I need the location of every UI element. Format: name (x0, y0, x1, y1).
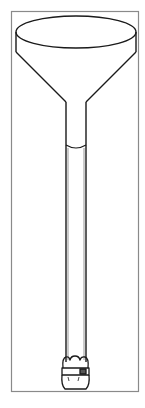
diagram-canvas (0, 0, 145, 408)
funnel-rim (16, 16, 136, 48)
funnel-stem (66, 102, 86, 362)
funnel-icon (16, 16, 136, 362)
funnel-rim-band (16, 32, 136, 52)
funnel-cone (16, 52, 136, 102)
funnel-illustration (0, 0, 145, 408)
liquid-column (68, 148, 84, 360)
liquid-meniscus (66, 145, 86, 148)
